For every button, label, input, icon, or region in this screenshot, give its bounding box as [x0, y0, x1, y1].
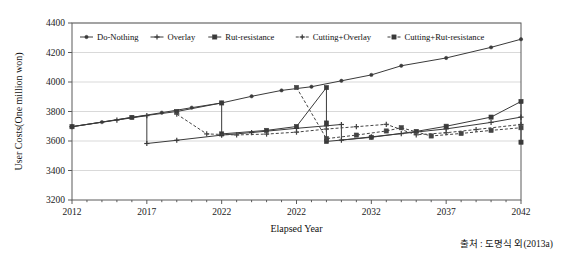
- data-point-marker: [250, 95, 253, 98]
- data-point-marker: [400, 64, 403, 67]
- chart-figure: 2012201720222022203220372042 32003400360…: [0, 0, 563, 256]
- y-axis-title: User Costs(One million won): [13, 52, 25, 170]
- x-tick-label: 2012: [63, 207, 82, 217]
- series-rut-resistance: [70, 86, 523, 145]
- y-tick-label: 3200: [46, 195, 65, 205]
- data-point-marker: [130, 115, 134, 119]
- series-line: [297, 87, 522, 138]
- x-axis-title: Elapsed Year: [270, 223, 323, 234]
- chart-legend: Do-NothingOverlayRut-resistanceCutting+O…: [80, 32, 484, 42]
- series-layer: [69, 38, 523, 147]
- legend-label: Cutting+Overlay: [313, 32, 372, 42]
- series-do-nothing: [70, 38, 522, 129]
- y-tick-label: 3600: [46, 136, 65, 146]
- x-tick-label: 2022: [212, 207, 231, 217]
- data-point-marker: [519, 38, 522, 41]
- y-axis: 3200340036003800400042004400: [46, 18, 72, 205]
- x-tick-label: 2037: [437, 207, 456, 217]
- data-point-marker: [444, 56, 447, 59]
- data-point-marker: [294, 124, 298, 128]
- x-tick-label: 2042: [512, 207, 531, 217]
- source-caption: 출처 : 도명식 외(2013a): [460, 236, 553, 250]
- data-point-marker: [489, 128, 493, 132]
- data-point-marker: [85, 35, 88, 38]
- legend-label: Overlay: [168, 32, 196, 42]
- data-point-marker: [444, 124, 448, 128]
- grid-lines: [72, 23, 521, 171]
- data-point-marker: [399, 126, 403, 130]
- legend-label: Rut-resistance: [225, 32, 274, 42]
- user-costs-line-chart: 2012201720222022203220372042 32003400360…: [0, 0, 563, 256]
- y-tick-label: 4200: [46, 48, 65, 58]
- legend-label: Do-Nothing: [97, 32, 139, 42]
- legend-item-overlay: Overlay: [151, 32, 196, 42]
- data-point-marker: [519, 126, 523, 130]
- y-tick-label: 3800: [46, 107, 65, 117]
- data-point-marker: [489, 46, 492, 49]
- y-tick-label: 4000: [46, 77, 65, 87]
- series-line: [177, 114, 521, 135]
- data-point-marker: [429, 134, 433, 138]
- data-point-marker: [220, 132, 224, 136]
- legend-item-rut-resistance: Rut-resistance: [208, 32, 274, 42]
- data-point-marker: [354, 133, 358, 137]
- y-tick-label: 3400: [46, 166, 65, 176]
- data-point-marker: [324, 121, 328, 125]
- data-point-marker: [519, 140, 523, 144]
- data-point-marker: [519, 99, 523, 103]
- data-point-marker: [340, 79, 343, 82]
- data-point-marker: [310, 85, 313, 88]
- data-point-marker: [324, 86, 328, 90]
- data-point-marker: [280, 89, 283, 92]
- legend-item-do-nothing: Do-Nothing: [80, 32, 139, 42]
- data-point-marker: [324, 137, 328, 141]
- y-tick-label: 4400: [46, 18, 65, 28]
- data-point-marker: [369, 135, 373, 139]
- legend-item-cutting-overlay: Cutting+Overlay: [296, 32, 372, 42]
- data-point-marker: [459, 131, 463, 135]
- x-tick-label: 2032: [362, 207, 381, 217]
- data-point-marker: [220, 101, 224, 105]
- data-point-marker: [294, 85, 298, 89]
- data-point-marker: [70, 125, 74, 129]
- x-tick-label: 2017: [137, 207, 156, 217]
- data-point-marker: [489, 115, 493, 119]
- data-point-marker: [384, 129, 388, 133]
- data-point-marker: [370, 73, 373, 76]
- x-tick-label: 2022: [287, 207, 306, 217]
- data-point-marker: [392, 35, 396, 39]
- legend-item-cutting-rut-resistance: Cutting+Rut-resistance: [388, 32, 485, 42]
- legend-label: Cutting+Rut-resistance: [405, 32, 485, 42]
- data-point-marker: [213, 35, 217, 39]
- x-axis: 2012201720222022203220372042: [63, 200, 531, 217]
